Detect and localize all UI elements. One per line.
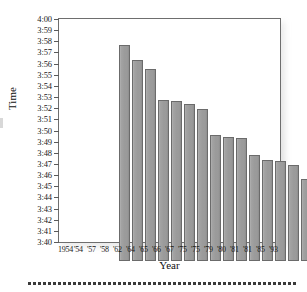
decorative-dot: [213, 282, 216, 285]
decorative-dot: [173, 282, 176, 285]
y-axis-tick-label: 3:45: [37, 182, 52, 191]
decorative-dot: [83, 282, 86, 285]
y-axis-tick-label: 3:55: [37, 70, 52, 79]
x-axis-tick-label: '54: [74, 246, 83, 254]
plot-area: 4:003:593:583:573:563:553:543:533:523:51…: [58, 18, 281, 243]
decorative-dot: [228, 282, 231, 285]
decorative-dot: [273, 282, 276, 285]
bar: [210, 135, 220, 261]
x-axis-tick-label: '62: [113, 246, 122, 254]
y-axis-tick: [54, 197, 59, 198]
decorative-dot: [128, 282, 131, 285]
y-axis-tick: [54, 220, 59, 221]
decorative-dot: [208, 282, 211, 285]
y-axis-tick: [54, 119, 59, 120]
decorative-dot: [108, 282, 111, 285]
decorative-dot: [193, 282, 196, 285]
bar: [119, 45, 129, 261]
y-axis-tick: [54, 209, 59, 210]
bars-container: [118, 38, 307, 261]
y-axis-tick-label: 3:50: [37, 126, 52, 135]
decorative-dot: [268, 282, 271, 285]
y-axis-tick-label: 4:00: [37, 15, 52, 24]
decorative-dot: [158, 282, 161, 285]
decorative-dot: [98, 282, 101, 285]
decorative-dot: [218, 282, 221, 285]
x-axis-tick-label: 1954: [58, 246, 73, 254]
y-axis-tick-label: 3:54: [37, 82, 52, 91]
bar: [145, 69, 155, 261]
decorative-dot: [288, 282, 291, 285]
y-axis-tick: [54, 86, 59, 87]
x-axis-tick-label: '79: [204, 246, 213, 254]
y-axis-tick-label: 3:42: [37, 215, 52, 224]
y-axis-tick: [54, 175, 59, 176]
y-axis-tick: [54, 75, 59, 76]
bar: [236, 138, 246, 261]
y-axis-tick: [54, 52, 59, 53]
decorative-dot: [258, 282, 261, 285]
decorative-dot: [73, 282, 76, 285]
y-axis-tick-label: 3:46: [37, 171, 52, 180]
x-axis-tick-label: '80: [217, 246, 226, 254]
y-axis-tick-label: 3:56: [37, 59, 52, 68]
y-axis-tick-label: 3:44: [37, 193, 52, 202]
decorative-dot: [243, 282, 246, 285]
x-axis-tick-label: '81: [230, 246, 239, 254]
decorative-dot: [153, 282, 156, 285]
decorative-dot: [33, 282, 36, 285]
y-axis-tick: [54, 19, 59, 20]
y-axis-tick-label: 3:49: [37, 137, 52, 146]
decorative-dot: [283, 282, 286, 285]
y-axis-tick: [54, 231, 59, 232]
decorative-dot: [93, 282, 96, 285]
x-axis-tick-label: '66: [152, 246, 161, 254]
y-axis-tick-label: 3:47: [37, 160, 52, 169]
decorative-dot: [178, 282, 181, 285]
y-axis-tick-label: 3:51: [37, 115, 52, 124]
y-axis-tick: [54, 164, 59, 165]
decorative-dot: [43, 282, 46, 285]
x-axis-tick-label: '85: [256, 246, 265, 254]
decorative-dot: [198, 282, 201, 285]
decorative-dot: [183, 282, 186, 285]
decorative-dot: [293, 282, 296, 285]
bar: [288, 165, 298, 261]
x-axis-tick-label: '57: [87, 246, 96, 254]
x-axis-tick-label: '64: [126, 246, 135, 254]
y-axis-tick-label: 3:52: [37, 104, 52, 113]
y-axis-tick: [54, 41, 59, 42]
decorative-dot: [233, 282, 236, 285]
x-axis-tick-label: '67: [165, 246, 174, 254]
decorative-dot: [163, 282, 166, 285]
y-axis-tick: [54, 153, 59, 154]
decorative-dot: [168, 282, 171, 285]
y-axis-tick-label: 3:40: [37, 238, 52, 247]
y-axis-tick-label: 3:48: [37, 149, 52, 158]
x-axis-tick-label: '58: [100, 246, 109, 254]
y-axis-tick: [54, 242, 59, 243]
decorative-dot: [113, 282, 116, 285]
y-axis-tick: [54, 186, 59, 187]
decorative-dot: [58, 282, 61, 285]
decorative-dot: [148, 282, 151, 285]
decorative-dot: [253, 282, 256, 285]
page-edge-artifact: [0, 118, 3, 128]
x-axis-tick-label: '81: [243, 246, 252, 254]
decorative-dot: [123, 282, 126, 285]
decorative-dotted-rule: [28, 281, 296, 285]
decorative-dot: [238, 282, 241, 285]
y-axis-tick: [54, 30, 59, 31]
decorative-dot: [68, 282, 71, 285]
bar: [184, 104, 194, 261]
x-axis: 1954'54'57'58'62'64'65'66'67'75'75'79'80…: [59, 246, 280, 260]
y-axis-tick-label: 3:58: [37, 37, 52, 46]
decorative-dot: [63, 282, 66, 285]
x-axis-tick-label: '75: [178, 246, 187, 254]
decorative-dot: [138, 282, 141, 285]
y-axis-tick: [54, 108, 59, 109]
x-axis-tick-label: '75: [191, 246, 200, 254]
y-axis-tick-label: 3:41: [37, 227, 52, 236]
decorative-dot: [28, 282, 31, 285]
bar: [223, 137, 233, 261]
